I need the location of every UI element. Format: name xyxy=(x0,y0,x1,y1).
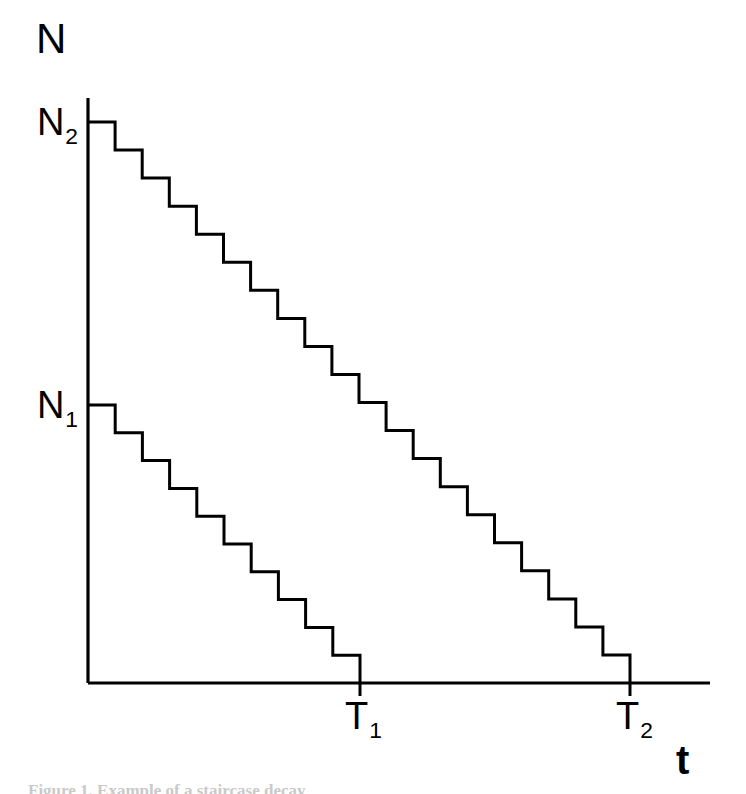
upper-staircase-curve xyxy=(88,122,630,683)
y-level-N1-subscript: 1 xyxy=(65,406,78,432)
y-level-label-N2: N2 xyxy=(37,103,77,141)
plot-canvas xyxy=(0,0,746,794)
lower-staircase-curve xyxy=(88,405,360,683)
y-level-label-N1: N1 xyxy=(37,386,77,424)
x-tick-T2-subscript: 2 xyxy=(640,717,653,743)
figure-container: N N2 N1 T1 T2 t Figure 1. Example of a s… xyxy=(0,0,746,794)
x-tick-label-T2: T2 xyxy=(616,697,652,735)
y-level-N2-base: N xyxy=(37,101,64,143)
x-tick-T1-base: T xyxy=(345,695,368,737)
x-axis-title: t xyxy=(676,740,689,780)
y-axis-title: N xyxy=(36,18,66,60)
y-level-N1-base: N xyxy=(37,384,64,426)
x-tick-T2-base: T xyxy=(616,695,639,737)
x-tick-label-T1: T1 xyxy=(345,697,381,735)
y-level-N2-subscript: 2 xyxy=(65,123,78,149)
x-tick-T1-subscript: 1 xyxy=(369,717,382,743)
